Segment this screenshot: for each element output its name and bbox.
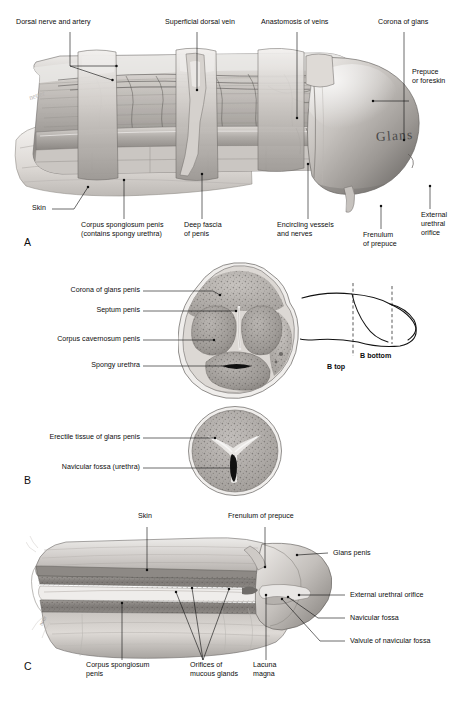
label-septum-penis: Septum penis: [20, 306, 140, 315]
label-corpus-cavernosum-penis: Corpus cavernosum penis: [10, 335, 140, 344]
label-corona-of-glans: Corona of glans: [378, 18, 428, 27]
label-external-urethral-orifice-panel-c: External urethral orifice: [350, 591, 423, 600]
label-navicular-fossa: Navicular fossa: [350, 614, 399, 623]
label-corpus-spongiosum-penis-panel-c: Corpus spongiosum penis: [86, 661, 149, 679]
label-corona-of-glans-penis: Corona of glans penis: [20, 286, 140, 295]
label-glans-penis: Glans penis: [333, 549, 371, 558]
label-skin-panel-a: Skin: [32, 204, 46, 213]
label-anastomosis-of-veins: Anastomosis of veins: [261, 18, 328, 27]
anatomical-plate: netter Glans: [0, 0, 464, 702]
label-orifices-of-mucous-glands: Orifices of mucous glands: [190, 661, 238, 679]
label-valvule-of-navicular-fossa: Valvule of navicular fossa: [350, 637, 430, 646]
label-corpus-spongiosum-penis-panel-a: Corpus spongiosum penis (contains spongy…: [81, 221, 163, 239]
label-external-urethral-orifice-panel-a: External urethral orifice: [421, 211, 447, 239]
panel-a-leaders: [0, 0, 464, 262]
label-encircling-vessels-and-nerves: Encircling vessels and nerves: [277, 221, 334, 239]
label-spongy-urethra: Spongy urethra: [20, 361, 140, 370]
label-erectile-tissue-of-glans-penis: Erectile tissue of glans penis: [6, 433, 140, 442]
panel-b-id: B: [24, 474, 31, 486]
label-navicular-fossa-urethra: Navicular fossa (urethra): [6, 463, 140, 472]
panel-a-id: A: [24, 236, 31, 248]
label-frenulum-of-prepuce-panel-c: Frenulum of prepuce: [228, 512, 294, 521]
label-superficial-dorsal-vein: Superficial dorsal vein: [165, 18, 235, 27]
label-frenulum-of-prepuce-panel-a: Frenulum of prepuce: [363, 231, 397, 249]
label-dorsal-nerve-and-artery: Dorsal nerve and artery: [16, 18, 91, 27]
label-lacuna-magna: Lacuna magna: [253, 661, 276, 679]
label-prepuce-or-foreskin: Prepuce or foreskin: [412, 68, 445, 86]
label-deep-fascia-of-penis: Deep fascia of penis: [184, 221, 222, 239]
panel-c-id: C: [24, 660, 32, 672]
label-skin-panel-c: Skin: [138, 512, 152, 521]
